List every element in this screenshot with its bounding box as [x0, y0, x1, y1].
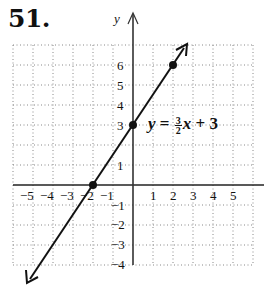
y-tick: 1	[117, 159, 124, 172]
y-tick: 5	[117, 79, 124, 92]
x-tick: −5	[20, 189, 34, 202]
y-tick: −4	[111, 258, 125, 271]
equation-label: y = 32x + 3	[148, 114, 218, 135]
x-tick: −2	[80, 189, 94, 202]
y-axis-label: y	[114, 12, 120, 25]
x-tick: −3	[60, 189, 74, 202]
eq-fraction: 32	[175, 116, 182, 135]
x-tick: 5	[230, 189, 237, 202]
y-tick: 3	[117, 119, 124, 132]
eq-sign: =	[160, 114, 170, 133]
y-tick: 4	[117, 99, 124, 112]
eq-lhs: y	[148, 114, 156, 133]
x-tick: 3	[190, 189, 197, 202]
y-tick: −2	[111, 218, 125, 231]
x-tick: −1	[100, 189, 114, 202]
eq-const: 3	[209, 114, 218, 133]
eq-var: x	[183, 114, 192, 133]
x-tick: 2	[170, 189, 177, 202]
graph-line	[30, 48, 184, 279]
x-tick: 4	[210, 189, 217, 202]
point-0-3	[129, 121, 137, 129]
graph	[0, 0, 264, 301]
point-2-6	[169, 61, 177, 69]
x-tick: −4	[40, 189, 54, 202]
x-tick: 1	[150, 189, 157, 202]
y-tick: −3	[111, 238, 125, 251]
eq-plus: +	[195, 114, 205, 133]
y-tick: 6	[117, 59, 124, 72]
eq-den: 2	[175, 126, 182, 135]
